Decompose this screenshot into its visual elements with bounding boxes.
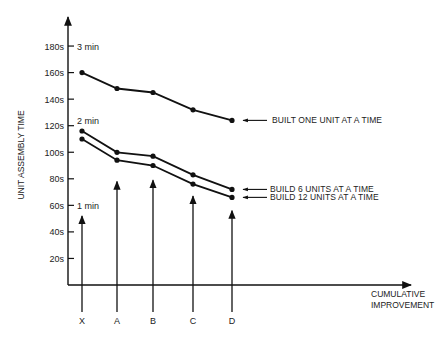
category-label: C (190, 316, 197, 326)
data-point (229, 187, 234, 192)
data-point (150, 90, 155, 95)
data-point (150, 154, 155, 159)
data-point (150, 163, 155, 168)
time-note: 2 min (77, 116, 99, 126)
data-point (229, 195, 234, 200)
assembly-time-chart: UNIT ASSEMBLY TIME 20s40s60s80s100s120s1… (0, 0, 447, 337)
series-label: BUILT ONE UNIT AT A TIME (272, 115, 382, 125)
data-point (229, 118, 234, 123)
y-tick-label: 100s (44, 148, 64, 158)
time-notes: 1 min2 min3 min (77, 42, 99, 211)
data-point (190, 107, 195, 112)
y-tick-label: 80s (49, 174, 64, 184)
data-point (114, 158, 119, 163)
data-point (79, 70, 84, 75)
y-tick-label: 60s (49, 201, 64, 211)
y-axis-title: UNIT ASSEMBLY TIME (16, 110, 26, 199)
x-axis-title-line2: IMPROVEMENT (371, 300, 434, 310)
category-markers: XABCD (79, 180, 236, 326)
category-label: B (150, 316, 156, 326)
axes (68, 17, 411, 285)
data-point (190, 182, 195, 187)
data-point (114, 86, 119, 91)
series-line (82, 139, 232, 197)
time-note: 3 min (77, 42, 99, 52)
time-note: 1 min (77, 201, 99, 211)
category-label: A (114, 316, 120, 326)
y-tick-label: 20s (49, 254, 64, 264)
x-axis-title-line1: CUMULATIVE (371, 289, 425, 299)
series-lines (79, 70, 234, 200)
series-labels: BUILT ONE UNIT AT A TIMEBUILD 6 UNITS AT… (243, 115, 382, 202)
y-ticks: 20s40s60s80s100s120s140s160s180s (44, 42, 74, 264)
data-point (79, 136, 84, 141)
y-tick-label: 160s (44, 68, 64, 78)
y-tick-label: 140s (44, 95, 64, 105)
y-tick-label: 120s (44, 121, 64, 131)
series-line (82, 131, 232, 189)
series-label: BUILD 12 UNITS AT A TIME (270, 192, 379, 202)
data-point (190, 172, 195, 177)
category-label: D (229, 316, 236, 326)
data-point (79, 128, 84, 133)
y-tick-label: 180s (44, 42, 64, 52)
category-label: X (79, 316, 85, 326)
y-tick-label: 40s (49, 227, 64, 237)
series-line (82, 73, 232, 121)
data-point (114, 150, 119, 155)
